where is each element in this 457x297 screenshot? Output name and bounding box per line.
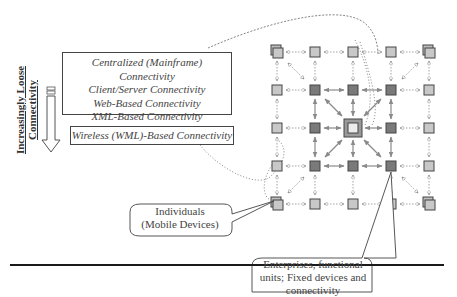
callout-individuals-line2: (Mobile Devices): [132, 218, 228, 231]
node-light: [348, 47, 358, 57]
node-mobile-stack: [271, 197, 283, 210]
node-light: [310, 199, 320, 209]
node-dark: [386, 123, 396, 133]
node-dark: [386, 161, 396, 171]
node-light: [348, 199, 358, 209]
node-mobile-stack: [423, 45, 435, 58]
node-mobile-stack: [271, 45, 283, 58]
connectivity-levels-box: Centralized (Mainframe) Connectivity Cli…: [62, 52, 232, 115]
wireless-level-text: Wireless (WML)-Based Connectivity: [72, 129, 232, 141]
node-dark: [386, 85, 396, 95]
node-dark: [310, 161, 320, 171]
node-dark: [348, 161, 358, 171]
callout-individuals-line1: Individuals: [132, 205, 228, 218]
callout-enterprises-line3: connectivity: [256, 284, 370, 297]
callout-enterprises-line1: Enterprises, functional: [256, 258, 370, 271]
callout-enterprises: Enterprises, functional units; Fixed dev…: [256, 258, 370, 297]
node-light: [424, 85, 434, 95]
level-item: Client/Server Connectivity: [63, 83, 231, 97]
axis-label-line2: Connectivity: [26, 66, 38, 154]
level-item: Centralized (Mainframe) Connectivity: [63, 56, 231, 83]
node-dark: [348, 85, 358, 95]
node-light: [424, 123, 434, 133]
node-light: [272, 123, 282, 133]
wireless-level-box: Wireless (WML)-Based Connectivity: [70, 126, 234, 145]
node-light: [386, 47, 396, 57]
node-dark: [310, 123, 320, 133]
node-light: [272, 85, 282, 95]
axis-label-line1: Increasingly Loose: [14, 66, 26, 154]
level-item: XML-Based Connectivity: [63, 110, 231, 124]
node-mobile-stack: [423, 197, 435, 210]
node-dark: [310, 85, 320, 95]
node-hub: [344, 119, 362, 137]
callout-individuals: Individuals (Mobile Devices): [132, 205, 228, 231]
level-item: Web-Based Connectivity: [63, 97, 231, 111]
callout-enterprises-line2: units; Fixed devices and: [256, 271, 370, 284]
node-light: [424, 161, 434, 171]
node-light: [310, 47, 320, 57]
axis-label: Increasingly Loose Connectivity: [6, 60, 46, 160]
node-light: [272, 161, 282, 171]
